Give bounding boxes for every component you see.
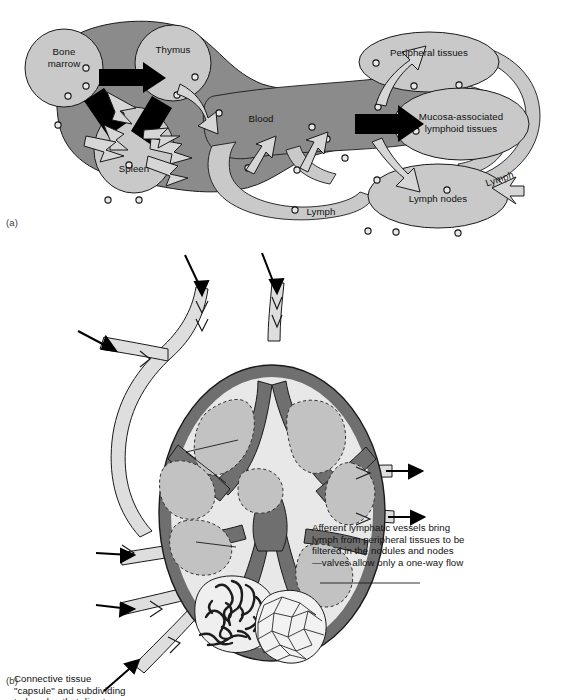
reticular-mesh [255, 590, 326, 663]
label-blood: Blood [236, 113, 286, 125]
label-spleen: Spleen [104, 163, 164, 175]
panel-a-lymphoid-circulation: Bone marrow Thymus Spleen Blood Peripher… [0, 0, 567, 245]
label-thymus: Thymus [143, 44, 203, 56]
annotation-connective-tissue-capsule: Connective tissue "capsule" and subdivid… [14, 673, 184, 700]
peripheral-tissues-shape [359, 32, 499, 92]
label-lymph-nodes: Lymph nodes [392, 193, 484, 205]
panel-b-svg [0, 245, 567, 700]
label-bone-marrow: Bone marrow [33, 46, 95, 69]
annotation-afferent-vessels: Afferent lymphatic vessels bring lymph f… [312, 522, 524, 568]
label-lymph-lower: Lymph [297, 206, 345, 218]
panel-a-tag: (a) [6, 217, 18, 228]
label-peripheral-tissues: Peripheral tissues [369, 47, 489, 59]
label-mucosa-associated-lymphoid-tissues: Mucosa-associated lymphoid tissues [399, 111, 523, 136]
panel-b-tag: (b) [6, 675, 18, 686]
panel-b-lymph-node: Afferent lymphatic vessels bring lymph f… [0, 245, 567, 700]
